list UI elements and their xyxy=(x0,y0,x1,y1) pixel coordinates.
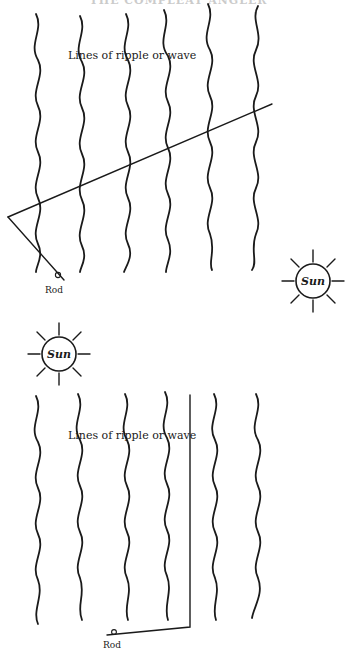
top-cast-line xyxy=(8,104,272,217)
bottom-rod-label: Rod xyxy=(103,640,121,650)
top-wave-label: Lines of ripple or wave xyxy=(68,49,196,62)
wave-line xyxy=(207,4,213,270)
top-wave-lines xyxy=(35,4,259,272)
top-figure: Lines of ripple or wave Rod Sun xyxy=(8,4,344,312)
top-sun-label: Sun xyxy=(301,275,325,288)
top-sun-icon: Sun xyxy=(282,250,344,312)
wave-line xyxy=(124,394,130,620)
bottom-figure: Sun Lines of ripple or wave Rod xyxy=(28,323,260,650)
wave-line xyxy=(164,392,170,620)
top-rod-label: Rod xyxy=(45,285,63,295)
wave-line xyxy=(252,6,259,270)
bottom-sun-icon: Sun xyxy=(28,323,90,385)
bottom-sun-label: Sun xyxy=(47,348,71,361)
wave-line xyxy=(77,394,83,620)
wave-line xyxy=(35,396,41,624)
wave-line xyxy=(252,394,260,618)
wave-line xyxy=(212,394,217,620)
bottom-wave-lines xyxy=(35,392,261,624)
diagram-canvas: Lines of ripple or wave Rod Sun xyxy=(0,0,357,651)
wave-line xyxy=(35,14,41,272)
bottom-wave-label: Lines of ripple or wave xyxy=(68,429,196,442)
